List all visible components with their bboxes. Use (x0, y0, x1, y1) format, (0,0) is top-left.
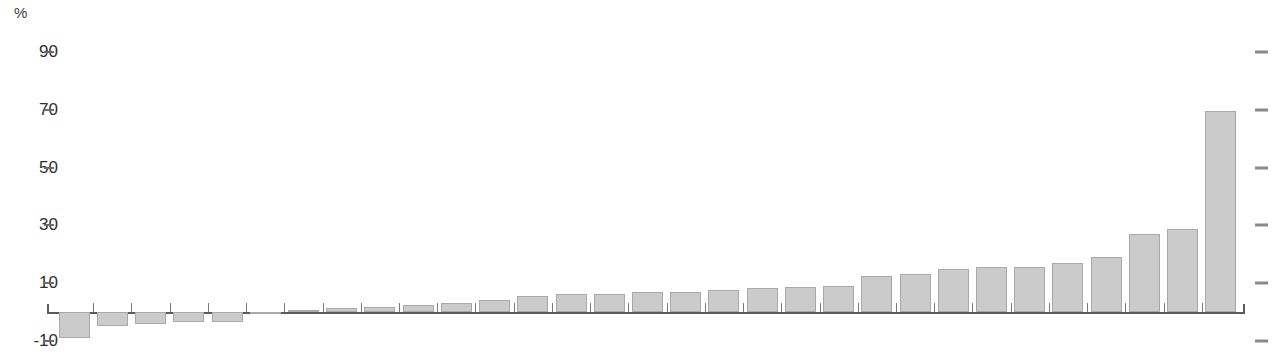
x-axis-tick-mark (972, 303, 973, 312)
x-axis-tick-mark (1164, 303, 1165, 312)
x-axis-tick-mark (93, 303, 94, 312)
plot-area (0, 0, 1273, 360)
bar (326, 308, 357, 312)
baseline-left-cap (47, 304, 49, 313)
bar (556, 294, 587, 312)
bar (632, 292, 663, 312)
x-axis-tick-mark (284, 303, 285, 312)
bar (97, 312, 128, 326)
x-axis-tick-mark (361, 303, 362, 312)
bar (1014, 267, 1045, 312)
bar (1129, 234, 1160, 312)
bar (1167, 229, 1198, 312)
bar (785, 287, 816, 312)
x-axis-tick-mark (628, 303, 629, 312)
x-axis-tick-mark (1087, 303, 1088, 312)
bar (1205, 111, 1236, 312)
bar (479, 300, 510, 312)
x-axis-tick-mark (208, 303, 209, 312)
x-axis-tick-mark (896, 303, 897, 312)
bar (250, 312, 281, 314)
x-axis-tick-mark (437, 303, 438, 312)
bar (708, 290, 739, 312)
x-axis-tick-mark (399, 303, 400, 312)
bar (823, 286, 854, 312)
x-axis-tick-mark (1202, 303, 1203, 312)
x-axis-tick-mark (705, 303, 706, 312)
bar (441, 303, 472, 312)
x-axis-tick-mark (246, 303, 247, 312)
x-axis-tick-mark (131, 303, 132, 312)
x-axis-tick-mark (820, 303, 821, 312)
bar (135, 312, 166, 324)
bar (670, 292, 701, 312)
bar (364, 307, 395, 312)
bar (403, 305, 434, 312)
x-axis-tick-mark (552, 303, 553, 312)
x-axis-tick-mark (590, 303, 591, 312)
bar (212, 312, 243, 322)
bar (976, 267, 1007, 312)
x-axis-tick-mark (514, 303, 515, 312)
x-axis-tick-mark (1011, 303, 1012, 312)
bar (288, 310, 319, 312)
bar (59, 312, 90, 338)
x-axis-tick-mark (934, 303, 935, 312)
x-axis-tick-mark (475, 303, 476, 312)
baseline-right-cap (1243, 304, 1245, 313)
x-axis-tick-mark (1125, 303, 1126, 312)
bar (900, 274, 931, 312)
x-axis-tick-mark (667, 303, 668, 312)
bar (173, 312, 204, 322)
bar (861, 276, 892, 312)
bar-chart: % 9070503010-10 (0, 0, 1273, 360)
x-axis-tick-mark (858, 303, 859, 312)
x-axis-tick-mark (1049, 303, 1050, 312)
x-axis-tick-mark (743, 303, 744, 312)
bar (1091, 257, 1122, 312)
bar (594, 294, 625, 312)
bar (938, 269, 969, 312)
bar (1052, 263, 1083, 312)
bar (747, 288, 778, 312)
x-axis-tick-mark (170, 303, 171, 312)
x-axis-tick-mark (323, 303, 324, 312)
bar (517, 296, 548, 312)
x-axis-tick-mark (781, 303, 782, 312)
